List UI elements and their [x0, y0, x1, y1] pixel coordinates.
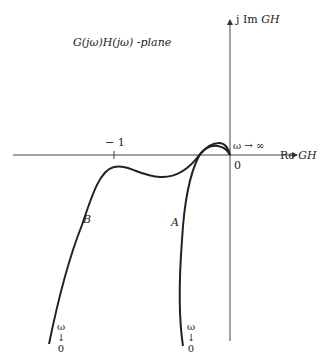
zero-label: 0 — [55, 343, 67, 354]
plane-title-text: G(jω)H(jω) -plane — [73, 36, 171, 49]
origin-label: 0 — [234, 160, 241, 171]
omega-symbol: ω — [55, 321, 67, 332]
down-arrow-icon: ↓ — [55, 332, 67, 343]
curve-a-label: A — [171, 217, 179, 228]
tick-label-minus-one: − 1 — [105, 137, 125, 148]
high-frequency-label: ω → ∞ — [233, 141, 264, 151]
curve-a — [180, 146, 230, 346]
curve-b-label: B — [83, 214, 91, 225]
imag-axis-label: j Im GH — [236, 14, 280, 25]
curve-b-start-label: ω ↓ 0 — [55, 321, 67, 354]
plane-title: G(jω)H(jω) -plane — [73, 37, 171, 48]
down-arrow-icon: ↓ — [185, 332, 197, 343]
curve-b — [49, 143, 230, 344]
nyquist-plot — [0, 0, 327, 364]
omega-symbol: ω — [185, 321, 197, 332]
imag-axis-label-prefix: j Im — [236, 13, 261, 26]
real-axis-label-var: GH — [298, 149, 316, 162]
real-axis-label-prefix: Re — [280, 149, 298, 162]
imag-axis-label-var: GH — [261, 13, 279, 26]
zero-label: 0 — [185, 343, 197, 354]
real-axis-label: Re GH — [280, 150, 317, 161]
curve-a-start-label: ω ↓ 0 — [185, 321, 197, 354]
